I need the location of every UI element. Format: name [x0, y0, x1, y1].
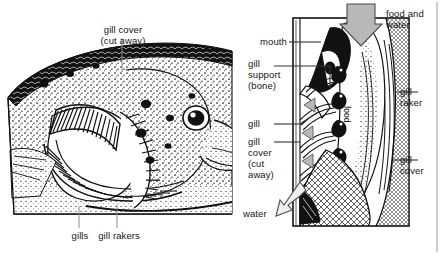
label-gill-cover-cut-away-right: gill cover (cut away) — [248, 136, 282, 180]
figure-canvas: gill cover (cut away) gills gill rakers … — [0, 0, 445, 254]
label-gill-cover-cut-away-left: gill cover (cut away) — [78, 24, 168, 46]
fish-eye — [183, 106, 209, 130]
label-gill-support-bone: gill support (bone) — [248, 58, 294, 91]
label-food-vertical: food — [342, 106, 352, 123]
label-gill: gill — [248, 118, 278, 129]
diagram-artwork — [0, 0, 445, 254]
label-gill-rakers: gill rakers — [88, 230, 150, 241]
label-food-and-water: food and water — [386, 8, 444, 30]
label-water: water — [243, 208, 287, 219]
label-gill-cover-right: gill cover — [400, 154, 442, 176]
label-mouth: mouth — [237, 36, 287, 47]
fish-head-illustration — [8, 43, 248, 214]
label-gill-raker: gill raker — [400, 86, 442, 108]
